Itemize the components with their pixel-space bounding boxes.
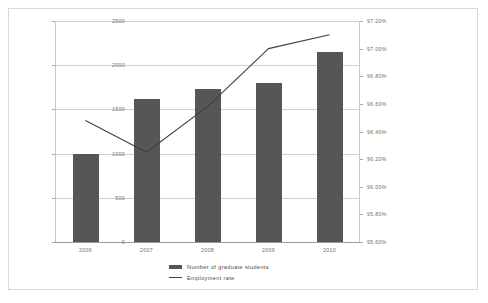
left-axis-tick [52,154,55,155]
right-axis-tick [360,214,363,215]
chart-frame: 05001000150020002500 95.60%95.80%96.00%9… [8,8,478,290]
left-axis-tick [52,198,55,199]
left-axis-tick-label: 2500 [112,18,125,24]
gridline [55,21,360,22]
right-axis-tick-label: 97.00% [367,46,387,52]
right-axis-tick-label: 97.20% [367,18,387,24]
right-axis-tick [360,104,363,105]
right-axis-tick [360,159,363,160]
left-axis-tick [52,242,55,243]
chart-legend: Number of graduate students Employment r… [9,261,479,283]
right-axis-tick-label: 96.00% [367,184,387,190]
category-tick-label: 2010 [323,247,336,253]
left-axis-tick-label: 2000 [112,62,125,68]
left-axis-tick [52,65,55,66]
left-axis-tick [52,21,55,22]
line-swatch-icon [169,277,182,278]
bar-swatch-icon [169,265,182,269]
right-axis-tick-label: 96.60% [367,101,387,107]
bar [195,89,221,242]
category-tick-label: 2006 [79,247,92,253]
plot-area [55,21,360,242]
category-tick-label: 2008 [201,247,214,253]
right-axis-tick [360,21,363,22]
category-tick-label: 2007 [140,247,153,253]
gridline [55,242,360,243]
legend-label-line: Employment rate [187,275,235,281]
right-axis-tick [360,49,363,50]
left-axis-tick-label: 500 [115,195,125,201]
bar [317,52,343,242]
right-axis-tick [360,76,363,77]
left-axis-tick-label: 1500 [112,106,125,112]
right-axis-tick-label: 96.20% [367,156,387,162]
right-axis-tick-label: 96.40% [367,129,387,135]
right-axis-tick-label: 95.60% [367,239,387,245]
right-axis-tick-label: 96.80% [367,73,387,79]
legend-label-bars: Number of graduate students [187,264,269,270]
bar [134,99,160,242]
right-axis-tick [360,187,363,188]
left-axis-tick [52,109,55,110]
bar [73,154,99,242]
gridline [55,65,360,66]
right-axis-tick-label: 95.80% [367,211,387,217]
bar [256,83,282,242]
left-axis-tick-label: 0 [122,239,125,245]
left-axis-tick-label: 1000 [112,151,125,157]
legend-item-bars: Number of graduate students [9,261,479,272]
right-axis-tick [360,242,363,243]
category-tick-label: 2009 [262,247,275,253]
legend-item-line: Employment rate [9,272,479,283]
right-axis-tick [360,132,363,133]
